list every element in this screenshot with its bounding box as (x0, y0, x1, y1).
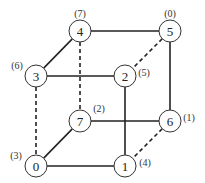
node-annotation-7: (2) (93, 103, 105, 115)
edge-4-3 (44, 39, 73, 68)
node-id-text: 2 (122, 69, 129, 84)
edge-0-7 (44, 129, 73, 158)
node-5: 5 (159, 20, 181, 42)
node-id-text: 7 (77, 114, 84, 129)
node-6: 6 (159, 110, 181, 132)
node-id-text: 5 (167, 24, 174, 39)
node-annotation-2: (5) (138, 67, 150, 79)
hypercube-diagram: 01234567 (3)(4)(5)(6)(7)(0)(1)(2) (0, 0, 205, 183)
node-3: 3 (25, 65, 47, 87)
edges-layer (36, 31, 170, 166)
node-2: 2 (114, 65, 136, 87)
node-id-text: 1 (122, 159, 129, 174)
node-annotation-4: (7) (74, 8, 86, 20)
node-0: 0 (25, 155, 47, 177)
node-annotation-6: (1) (183, 112, 195, 124)
node-4: 4 (69, 20, 91, 42)
node-annotation-5: (0) (164, 8, 176, 20)
node-annotation-0: (3) (10, 150, 22, 162)
node-id-text: 3 (33, 69, 40, 84)
node-annotation-3: (6) (11, 60, 23, 72)
node-7: 7 (69, 110, 91, 132)
edge-6-1 (133, 129, 162, 158)
edge-5-2 (133, 39, 162, 68)
node-id-text: 6 (167, 114, 174, 129)
node-id-text: 0 (33, 159, 40, 174)
node-id-text: 4 (77, 24, 84, 39)
node-annotation-1: (4) (139, 157, 151, 169)
node-1: 1 (114, 155, 136, 177)
